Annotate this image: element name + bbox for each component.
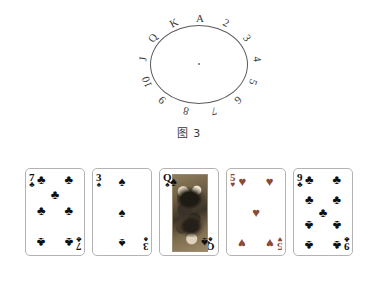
card-pip-area: ♥♥♥♥♥: [237, 175, 275, 249]
clubs-pip-icon: ♣: [64, 173, 73, 186]
card-corner-br: 7♣: [76, 235, 82, 252]
card-pip-area: ♣♣♣♣♣♣♣♣♣: [304, 175, 342, 249]
clock-label-text: 4: [251, 56, 263, 63]
card-5-of-hearts[interactable]: 5♥5♥♥♥♥♥♥: [226, 168, 286, 256]
clubs-pip-icon: ♣: [51, 188, 60, 201]
spades-icon: ♠: [201, 236, 208, 249]
spades-pip-icon: ♠: [119, 174, 126, 187]
clubs-pip-icon: ♣: [37, 235, 46, 248]
card-corner-tl: 5♥: [230, 172, 236, 189]
clubs-pip-icon: ♣: [37, 173, 46, 186]
card-corner-tl: 3♠: [96, 172, 102, 189]
card-corner-tl: 9♣: [297, 172, 303, 189]
clubs-pip-icon: ♣: [332, 173, 341, 186]
clubs-icon: ♣: [76, 235, 81, 243]
clubs-pip-icon: ♣: [305, 218, 314, 231]
card-corner-br: 9♣: [344, 235, 350, 252]
clubs-pip-icon: ♣: [305, 238, 314, 251]
card-corner-br: 3♠: [143, 235, 149, 252]
clubs-pip-icon: ♣: [305, 173, 314, 186]
clock-label-text: J: [138, 57, 149, 63]
card-corner-br: 5♥: [277, 235, 283, 252]
card-q-of-spades[interactable]: Q♠Q♠♠♠: [159, 168, 219, 256]
clubs-pip-icon: ♣: [64, 235, 73, 248]
clubs-pip-icon: ♣: [305, 193, 314, 206]
clubs-icon: ♣: [344, 235, 349, 243]
card-9-of-clubs[interactable]: 9♣9♣♣♣♣♣♣♣♣♣♣: [293, 168, 353, 256]
spades-icon: ♠: [97, 181, 101, 189]
hearts-pip-icon: ♥: [238, 237, 246, 250]
clock-label-text: 8: [182, 105, 190, 117]
spades-icon: ♠: [165, 181, 169, 189]
clubs-icon: ♣: [297, 181, 302, 189]
card-3-of-spades[interactable]: 3♠3♠♠♠♠: [92, 168, 152, 256]
hearts-pip-icon: ♥: [238, 174, 246, 187]
clock-label-text: 5: [247, 77, 259, 86]
spades-pip-icon: ♠: [119, 206, 126, 219]
clubs-pip-icon: ♣: [332, 238, 341, 251]
clubs-pip-icon: ♣: [37, 203, 46, 216]
clock-label-text: 6: [232, 94, 243, 106]
clock-label-text: 3: [241, 33, 253, 44]
clubs-icon: ♣: [29, 181, 34, 189]
figure-3-caption: 图 3: [0, 124, 378, 140]
card-corner-tl: 7♣: [29, 172, 35, 189]
spades-icon: ♠: [143, 235, 147, 243]
clock-center-dot: [198, 63, 200, 65]
figure-4-playing-cards: 7♣7♣♣♣♣♣♣♣♣3♠3♠♠♠♠Q♠Q♠♠♠5♥5♥♥♥♥♥♥9♣9♣♣♣♣…: [0, 155, 378, 280]
hearts-pip-icon: ♥: [266, 174, 274, 187]
spades-icon: ♠: [170, 175, 177, 188]
hearts-icon: ♥: [277, 235, 282, 243]
hearts-pip-icon: ♥: [252, 206, 260, 219]
card-pip-area: ♠♠♠: [103, 175, 141, 249]
figure-3-clock-diagram: A2345678910JQK 图 3: [0, 0, 378, 150]
hearts-icon: ♥: [230, 181, 235, 189]
clubs-pip-icon: ♣: [332, 193, 341, 206]
spades-pip-icon: ♠: [119, 237, 126, 250]
spades-icon: ♠: [209, 235, 213, 243]
clock-label-text: A: [196, 13, 204, 24]
card-pip-area: ♣♣♣♣♣♣♣: [36, 175, 74, 249]
clubs-pip-icon: ♣: [64, 203, 73, 216]
clock-label-text: 9: [157, 94, 168, 106]
clock-label-text: 7: [210, 105, 218, 117]
card-7-of-clubs[interactable]: 7♣7♣♣♣♣♣♣♣♣: [25, 168, 85, 256]
hearts-pip-icon: ♥: [266, 237, 274, 250]
card-row: 7♣7♣♣♣♣♣♣♣♣3♠3♠♠♠♠Q♠Q♠♠♠5♥5♥♥♥♥♥♥9♣9♣♣♣♣…: [25, 168, 353, 256]
clubs-pip-icon: ♣: [319, 206, 328, 219]
clubs-pip-icon: ♣: [332, 218, 341, 231]
clock-diagram: A2345678910JQK: [139, 14, 261, 116]
clock-label-text: 2: [221, 17, 231, 29]
